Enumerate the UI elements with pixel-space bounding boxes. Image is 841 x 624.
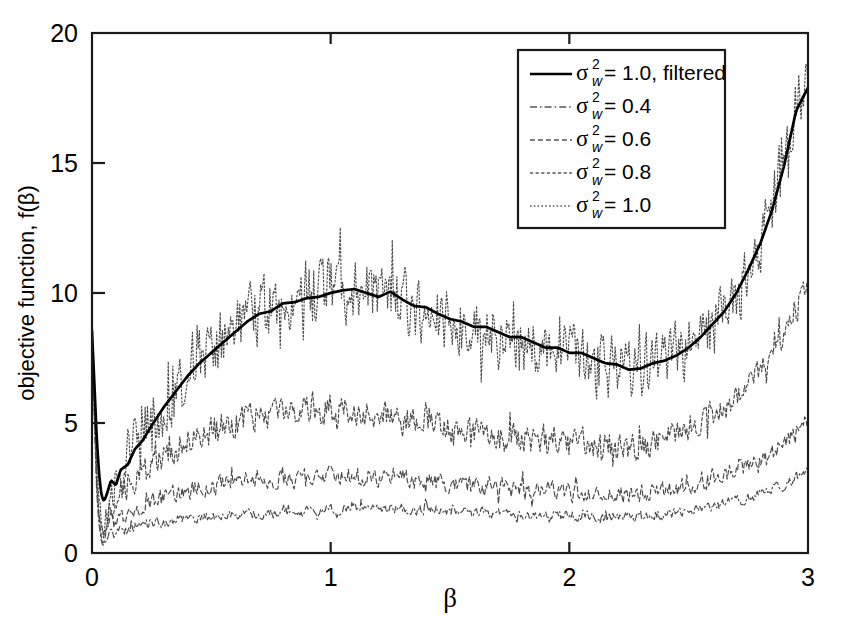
legend-sigma-3: σ	[576, 159, 589, 184]
legend-superscript-4: 2	[592, 188, 600, 204]
legend-sigma-1: σ	[576, 93, 589, 118]
legend-superscript-0: 2	[592, 56, 600, 72]
legend-sigma-0: σ	[576, 60, 589, 85]
legend-superscript-2: 2	[592, 122, 600, 138]
legend-sigma-4: σ	[576, 192, 589, 217]
y-tick-label-3: 15	[50, 149, 78, 177]
x-tick-label-2: 2	[562, 563, 576, 591]
chart-figure: 0123 05101520 β objective function, f(β)…	[0, 0, 841, 624]
y-axis-title: objective function, f(β)	[14, 185, 39, 401]
legend-label-1: = 0.4	[604, 94, 652, 117]
x-axis-title: β	[443, 583, 457, 613]
legend-label-2: = 0.6	[604, 127, 651, 150]
legend: σ2w= 1.0, filteredσ2w= 0.4σ2w= 0.6σ2w= 0…	[518, 50, 726, 228]
legend-subscript-3: w	[592, 172, 603, 188]
legend-label-0: = 1.0, filtered	[604, 61, 726, 84]
legend-label-3: = 0.8	[604, 160, 651, 183]
x-tick-label-3: 3	[801, 563, 815, 591]
legend-label-4: = 1.0	[604, 193, 651, 216]
x-tick-label-0: 0	[85, 563, 99, 591]
legend-subscript-1: w	[592, 106, 603, 122]
objective-function-plot: 0123 05101520 β objective function, f(β)…	[0, 0, 841, 624]
x-tick-label-1: 1	[324, 563, 338, 591]
legend-superscript-3: 2	[592, 155, 600, 171]
legend-sigma-2: σ	[576, 126, 589, 151]
y-tick-label-4: 20	[50, 19, 78, 47]
y-tick-label-1: 5	[64, 409, 78, 437]
legend-superscript-1: 2	[592, 89, 600, 105]
y-axis-title-group: objective function, f(β)	[14, 185, 39, 401]
y-tick-label-2: 10	[50, 279, 78, 307]
legend-subscript-0: w	[592, 73, 603, 89]
legend-subscript-2: w	[592, 139, 603, 155]
y-tick-label-0: 0	[64, 539, 78, 567]
legend-subscript-4: w	[592, 205, 603, 221]
